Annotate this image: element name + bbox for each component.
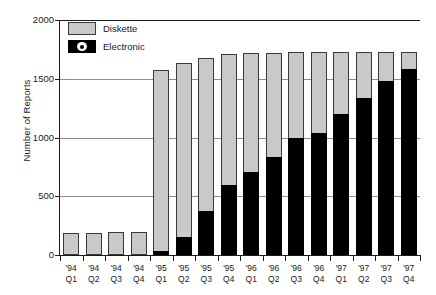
x-axis-tick-label: '95Q3 (194, 263, 218, 285)
x-label-year: '95 (172, 263, 196, 274)
legend-item-electronic: Electronic (68, 40, 188, 53)
bar-group (311, 52, 327, 255)
bar-segment-electronic (288, 138, 304, 256)
x-label-quarter: Q2 (172, 274, 196, 285)
x-label-quarter: Q2 (352, 274, 376, 285)
x-label-quarter: Q4 (397, 274, 421, 285)
bar-segment-electronic (153, 251, 169, 255)
x-axis-tick-label: '97Q1 (329, 263, 353, 285)
x-label-year: '97 (397, 263, 421, 274)
x-label-quarter: Q4 (307, 274, 331, 285)
x-label-year: '97 (374, 263, 398, 274)
electronic-swatch-icon (68, 40, 96, 53)
bar-group (198, 58, 214, 255)
bar-group (86, 233, 102, 255)
x-axis-tick-mark (218, 256, 219, 261)
x-axis-tick-mark (150, 256, 151, 261)
x-axis-tick-mark (83, 256, 84, 261)
x-label-year: '97 (352, 263, 376, 274)
y-axis-tick-label: 500 (20, 191, 54, 201)
x-label-quarter: Q4 (127, 274, 151, 285)
bar-segment-electronic (378, 81, 394, 255)
x-axis-tick-label: '97Q2 (352, 263, 376, 285)
x-axis-tick-label: '96Q2 (262, 263, 286, 285)
legend-label-electronic: Electronic (103, 41, 145, 52)
x-label-quarter: Q3 (194, 274, 218, 285)
bar-segment-diskette (63, 233, 79, 255)
x-axis-tick-label: '94Q4 (127, 263, 151, 285)
x-axis-tick-label: '97Q4 (397, 263, 421, 285)
x-axis-tick-mark (173, 256, 174, 261)
bar-segment-diskette (333, 52, 349, 114)
x-label-quarter: Q1 (329, 274, 353, 285)
bar-segment-diskette (243, 53, 259, 172)
bar-segment-diskette (86, 233, 102, 255)
x-label-year: '96 (262, 263, 286, 274)
bar-segment-diskette (288, 52, 304, 138)
x-axis-tick-label: '95Q4 (217, 263, 241, 285)
x-axis-tick-mark (263, 256, 264, 261)
x-label-year: '96 (239, 263, 263, 274)
x-axis-tick-label: '94Q3 (104, 263, 128, 285)
x-axis-tick-label: '94Q1 (59, 263, 83, 285)
y-axis-tick-label: 0 (20, 250, 54, 260)
x-label-quarter: Q2 (82, 274, 106, 285)
bar-segment-electronic (266, 157, 282, 255)
bar-segment-electronic (401, 69, 417, 255)
x-label-quarter: Q3 (284, 274, 308, 285)
bar-segment-electronic (311, 133, 327, 255)
y-axis-tick-mark (55, 20, 60, 21)
x-label-quarter: Q1 (239, 274, 263, 285)
x-label-year: '94 (59, 263, 83, 274)
bar-segment-diskette (108, 232, 124, 255)
x-label-year: '95 (149, 263, 173, 274)
bar-segment-diskette (266, 53, 282, 158)
electronic-disc-glyph (77, 42, 87, 51)
bar-group (401, 52, 417, 255)
x-axis-tick-label: '95Q2 (172, 263, 196, 285)
x-axis-tick-label: '97Q3 (374, 263, 398, 285)
bar-group (176, 63, 192, 255)
bar-segment-electronic (356, 98, 372, 255)
x-label-year: '96 (307, 263, 331, 274)
x-axis-tick-mark (240, 256, 241, 261)
bar-segment-diskette (311, 52, 327, 133)
x-axis-tick-mark (128, 256, 129, 261)
x-axis-tick-label: '96Q4 (307, 263, 331, 285)
bar-group (221, 54, 237, 256)
bar-segment-electronic (243, 172, 259, 255)
bar-segment-diskette (221, 54, 237, 185)
x-label-year: '95 (194, 263, 218, 274)
legend-label-diskette: Diskette (103, 23, 137, 34)
x-axis-tick-label: '95Q1 (149, 263, 173, 285)
y-axis-tick-mark (55, 255, 60, 256)
x-axis-tick-mark (60, 256, 61, 261)
bar-segment-diskette (153, 70, 169, 252)
y-axis-tick-mark (55, 138, 60, 139)
bar-segment-diskette (378, 52, 394, 81)
diskette-swatch-icon (68, 22, 96, 35)
x-label-year: '96 (284, 263, 308, 274)
bar-segment-electronic (176, 237, 192, 255)
bar-segment-diskette (176, 63, 192, 237)
x-label-year: '94 (82, 263, 106, 274)
x-axis-tick-label: '96Q1 (239, 263, 263, 285)
bar-group (333, 52, 349, 255)
bar-segment-diskette (356, 52, 372, 98)
x-axis-tick-label: '96Q3 (284, 263, 308, 285)
bar-group (153, 70, 169, 255)
bar-group (131, 232, 147, 256)
x-axis-tick-mark (420, 256, 421, 261)
bar-segment-diskette (198, 58, 214, 211)
x-axis-tick-mark (353, 256, 354, 261)
chart-legend: Diskette Electronic (68, 22, 188, 58)
x-axis-tick-label: '94Q2 (82, 263, 106, 285)
x-label-year: '94 (104, 263, 128, 274)
bar-segment-electronic (198, 211, 214, 255)
x-label-year: '94 (127, 263, 151, 274)
y-axis-tick-label: 1000 (20, 133, 54, 143)
bar-group (356, 52, 372, 255)
bar-segment-diskette (401, 52, 417, 70)
x-label-quarter: Q3 (104, 274, 128, 285)
x-label-quarter: Q1 (149, 274, 173, 285)
